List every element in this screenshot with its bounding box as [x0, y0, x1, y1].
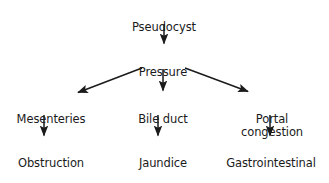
node-portal-congestion-label: Portal congestion	[241, 113, 303, 140]
node-obstruction-label: Obstruction	[18, 157, 84, 171]
node-gastrointestinal-haemorrhage-label-line1: Gastrointestinal	[226, 157, 316, 171]
node-pseudocyst-label: Pseudocyst	[132, 21, 196, 35]
node-mesenteries: Mesenteries	[17, 99, 86, 140]
edge-pressure-mesenteries	[78, 68, 142, 93]
flowchart-canvas: Pseudocyst Pressure Mesenteries Bile duc…	[0, 0, 329, 183]
node-pseudocyst: Pseudocyst	[132, 7, 196, 48]
node-gastrointestinal-haemorrhage: Gastrointestinal haemorrhage	[226, 143, 316, 183]
node-jaundice-label: Jaundice	[139, 157, 187, 171]
node-pressure: Pressure	[139, 52, 187, 93]
edge-pressure-portal-congestion	[185, 68, 248, 92]
node-jaundice: Jaundice	[139, 143, 187, 183]
node-bile-duct-label: Bile duct	[138, 113, 188, 127]
node-bile-duct: Bile duct	[138, 99, 188, 140]
node-mesenteries-label: Mesenteries	[17, 113, 86, 127]
node-pressure-label: Pressure	[139, 66, 187, 80]
node-obstruction: Obstruction	[18, 143, 84, 183]
